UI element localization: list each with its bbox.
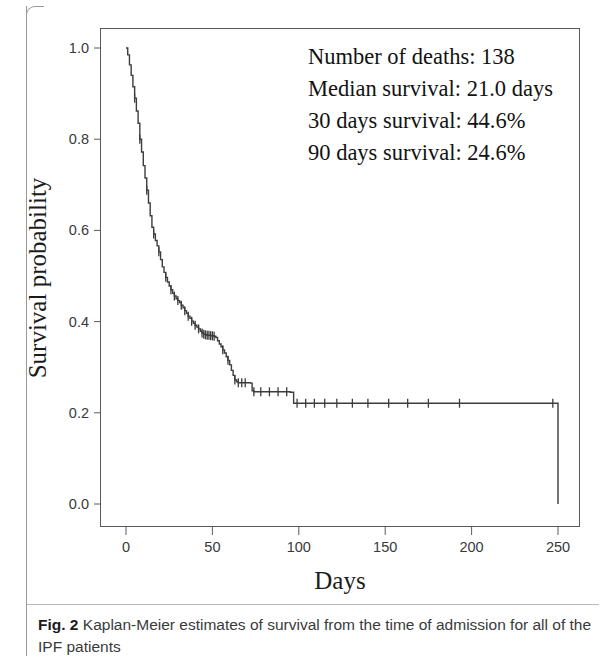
y-tick-label: 1.0	[69, 40, 89, 56]
x-tick-label: 200	[459, 539, 483, 555]
survival-chart-svg: 0.00.20.40.60.81.0 050100150200250 Survi…	[0, 0, 613, 600]
annotation-90-day-survival: 90 days survival: 24.6%	[308, 140, 525, 165]
y-tick-label: 0.2	[69, 405, 89, 421]
x-tick-label: 150	[373, 539, 397, 555]
figure-caption-text: Kaplan-Meier estimates of survival from …	[38, 616, 591, 655]
y-tick-label: 0.0	[69, 496, 89, 512]
y-tick-label: 0.8	[69, 131, 89, 147]
y-tick-label: 0.6	[69, 222, 89, 238]
x-tick-label: 50	[204, 539, 220, 555]
x-tick-label: 100	[287, 539, 311, 555]
y-axis-title: Survival probability	[24, 177, 51, 378]
y-axis-ticks: 0.00.20.40.60.81.0	[69, 40, 100, 512]
plot-frame	[101, 29, 580, 527]
caption-divider	[27, 604, 599, 605]
figure-container: 0.00.20.40.60.81.0 050100150200250 Survi…	[0, 0, 613, 665]
kaplan-meier-plot: 0.00.20.40.60.81.0 050100150200250 Survi…	[0, 0, 613, 600]
figure-caption: Fig. 2 Kaplan-Meier estimates of surviva…	[38, 614, 593, 658]
statistics-annotation: Number of deaths: 138 Median survival: 2…	[308, 44, 553, 165]
x-axis-title: Days	[314, 567, 365, 594]
annotation-number-of-deaths: Number of deaths: 138	[308, 44, 515, 69]
x-axis-ticks: 050100150200250	[122, 527, 570, 555]
x-tick-label: 250	[546, 539, 570, 555]
figure-caption-label: Fig. 2	[38, 616, 78, 633]
x-tick-label: 0	[122, 539, 130, 555]
annotation-median-survival: Median survival: 21.0 days	[308, 76, 553, 101]
y-tick-label: 0.4	[69, 314, 89, 330]
annotation-30-day-survival: 30 days survival: 44.6%	[308, 108, 525, 133]
